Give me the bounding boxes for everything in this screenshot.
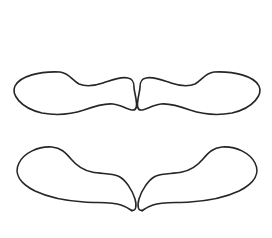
illustration-canvas: Four shoe sole outlines	[0, 0, 272, 238]
footprint-illustration: Four shoe sole outlines	[0, 0, 272, 238]
